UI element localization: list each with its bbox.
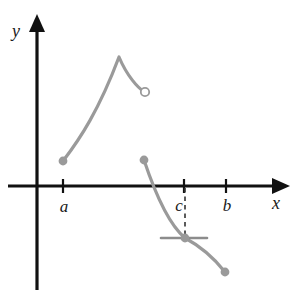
figure-root: y x a c b <box>0 0 302 297</box>
marker-branch1-right-open-endpoint <box>141 88 149 96</box>
marker-critical-point-at-c <box>181 234 190 243</box>
tick-label-b: b <box>223 196 232 215</box>
marker-branch1-left-endpoint <box>59 157 68 166</box>
tick-label-a: a <box>60 197 69 216</box>
y-axis-label: y <box>10 21 20 41</box>
graph-canvas: y x a c b <box>0 0 302 297</box>
figure-background <box>0 0 302 297</box>
x-axis-label: x <box>271 193 280 213</box>
marker-branch2-left-endpoint <box>140 156 149 165</box>
marker-branch2-right-endpoint <box>221 268 230 277</box>
tick-label-c: c <box>175 196 183 215</box>
